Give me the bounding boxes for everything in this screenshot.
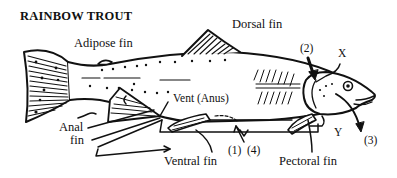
marker-3: (3) <box>364 135 377 147</box>
tail-fin <box>24 50 70 122</box>
trout-diagram: RAINBOW TROUT Adipose fin Dorsal fin (2)… <box>0 0 397 178</box>
adipose-fin-shape <box>98 60 112 64</box>
dorsal-fin <box>182 30 240 56</box>
marker-y: Y <box>334 127 342 139</box>
label-anal-fin-line1: Anal <box>59 121 83 134</box>
label-vent: Vent (Anus) <box>173 93 229 105</box>
label-ventral-fin: Ventral fin <box>164 155 217 168</box>
marker-2: (2) <box>300 43 313 55</box>
marker-4: (4) <box>247 145 260 157</box>
label-dorsal-fin: Dorsal fin <box>232 18 282 31</box>
label-adipose-fin: Adipose fin <box>74 37 133 50</box>
marker-x: X <box>338 48 346 60</box>
label-anal-fin-line2: fin <box>70 134 84 147</box>
trout-illustration <box>0 0 397 178</box>
marker-1: (1) <box>228 145 241 157</box>
diagram-title: RAINBOW TROUT <box>20 9 132 24</box>
label-pectoral-fin: Pectoral fin <box>279 155 337 168</box>
